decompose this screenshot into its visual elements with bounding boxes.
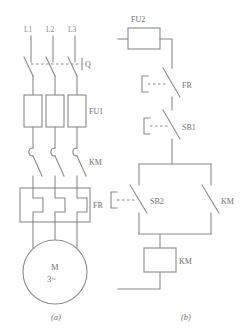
holding-contact-label: KM <box>221 197 234 206</box>
sb1-actuator-bracket <box>144 118 150 134</box>
overload-relay-fr[interactable]: FR <box>20 188 103 222</box>
start-button-label: SB2 <box>150 197 164 206</box>
sb1-contact-blade <box>163 110 180 139</box>
circuit-svg: L1 L2 L3 Q <box>0 0 248 335</box>
coil-return-bus <box>118 272 160 289</box>
switch-to-fuse-leads <box>33 76 77 95</box>
contact-to-relay-leads <box>33 176 77 188</box>
control-rail-top <box>160 39 172 68</box>
contactor-main-contacts-km[interactable]: KM <box>29 148 102 176</box>
motor-phase-symbol: 3~ <box>47 274 56 284</box>
overload-nc-contact-fr[interactable]: FR <box>142 68 192 110</box>
phase-label-l2: L2 <box>46 25 55 34</box>
stop-button-sb1[interactable]: SB1 <box>144 110 196 164</box>
phase-label-l1: L1 <box>24 25 33 34</box>
fuse-label-fu1: FU1 <box>89 107 103 116</box>
figure-label-a: (a) <box>51 312 61 322</box>
motor-symbol: M <box>51 262 59 272</box>
figure-label-b: (b) <box>181 312 191 322</box>
control-circuit: FU2 FR SB1 <box>111 15 234 322</box>
holding-contact-km[interactable]: KM <box>202 185 234 234</box>
sb2-actuator-bracket <box>111 192 117 208</box>
fuse-label-fu2: FU2 <box>131 15 145 24</box>
start-button-sb2[interactable]: SB2 <box>111 185 164 234</box>
contactor-coil-km: KM <box>144 248 192 272</box>
phase-label-l3: L3 <box>68 25 77 34</box>
contactor-contacts-label: KM <box>89 158 102 167</box>
fuse-fu2[interactable]: FU2 <box>128 15 160 49</box>
isolator-switch-q[interactable]: Q <box>24 57 91 76</box>
overload-relay-label: FR <box>93 201 103 210</box>
isolator-label: Q <box>85 60 91 69</box>
fuse-to-contact-leads <box>33 127 77 148</box>
sb2-contact-blade <box>130 185 147 213</box>
stop-button-label: SB1 <box>182 123 196 132</box>
fr-bimetal-bracket <box>142 76 148 92</box>
km-holding-blade <box>202 185 219 213</box>
main-power-circuit: L1 L2 L3 Q <box>20 25 103 322</box>
motor-m: M 3~ <box>23 240 87 304</box>
coil-label: KM <box>179 257 192 266</box>
circuit-diagram-sheet: L1 L2 L3 Q <box>0 0 248 335</box>
overload-nc-label: FR <box>182 81 192 90</box>
fr-contact-blade <box>163 68 180 97</box>
fuse-group-fu1[interactable]: FU1 <box>24 95 103 127</box>
